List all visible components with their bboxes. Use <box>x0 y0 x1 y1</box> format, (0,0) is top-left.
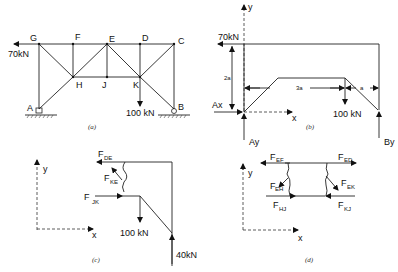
panel-a-labels: G F E D C H J K A B 70kN 100 kN (a) <box>8 32 185 131</box>
svg-text:y: y <box>248 168 253 178</box>
svg-text:3a: 3a <box>296 85 303 91</box>
svg-text:D: D <box>142 33 149 43</box>
caption-d: (d) <box>305 256 314 264</box>
panel-d-labels: y x F EF F ED F EH F EK F HJ F KJ (d) <box>248 152 355 264</box>
svg-text:G: G <box>30 33 37 43</box>
svg-text:H: H <box>76 80 83 90</box>
svg-text:100 kN: 100 kN <box>333 109 362 119</box>
svg-text:EH: EH <box>275 186 283 192</box>
roller-support-b <box>172 109 177 114</box>
svg-text:F: F <box>84 192 90 202</box>
svg-text:J: J <box>102 80 107 90</box>
svg-text:70kN: 70kN <box>218 32 239 42</box>
svg-text:x: x <box>292 113 297 123</box>
svg-text:DE: DE <box>104 155 112 161</box>
truss-figure: G F E D C H J K A B 70kN 100 kN (a) <box>0 0 398 272</box>
caption-a: (a) <box>88 123 97 131</box>
caption-c: (c) <box>92 256 100 264</box>
svg-text:70kN: 70kN <box>8 49 29 59</box>
svg-text:C: C <box>178 36 185 46</box>
svg-text:y: y <box>43 164 48 174</box>
svg-text:E: E <box>109 34 115 44</box>
panel-c-labels: y x F DE F KE F JK 100 kN 40kN (c) <box>43 149 197 264</box>
svg-text:Ax: Ax <box>212 100 223 110</box>
svg-text:A: A <box>27 103 33 113</box>
svg-text:JK: JK <box>92 199 99 205</box>
svg-text:HJ: HJ <box>279 206 286 212</box>
svg-text:100 kN: 100 kN <box>126 108 155 118</box>
svg-text:EF: EF <box>276 157 284 163</box>
panel-b-fbd <box>214 5 379 140</box>
svg-text:K: K <box>133 80 139 90</box>
svg-text:B: B <box>178 102 184 112</box>
panel-d-fbd <box>243 163 356 230</box>
svg-text:ED: ED <box>344 157 353 163</box>
svg-text:x: x <box>92 230 97 240</box>
svg-text:KJ: KJ <box>344 206 351 212</box>
svg-text:40kN: 40kN <box>176 250 197 260</box>
svg-text:x: x <box>298 233 303 243</box>
caption-b: (b) <box>306 123 315 131</box>
svg-text:KE: KE <box>110 179 118 185</box>
svg-text:2a: 2a <box>224 75 231 81</box>
panel-b-labels: y x 70kN 2a 3a a 100 kN Ax Ay By (b) <box>212 2 395 147</box>
svg-text:EK: EK <box>347 184 355 190</box>
svg-text:y: y <box>248 2 253 12</box>
svg-text:By: By <box>384 137 395 147</box>
svg-text:100 kN: 100 kN <box>120 228 149 238</box>
svg-text:a: a <box>360 85 364 91</box>
svg-text:Ay: Ay <box>249 137 260 147</box>
svg-text:F: F <box>75 32 81 42</box>
